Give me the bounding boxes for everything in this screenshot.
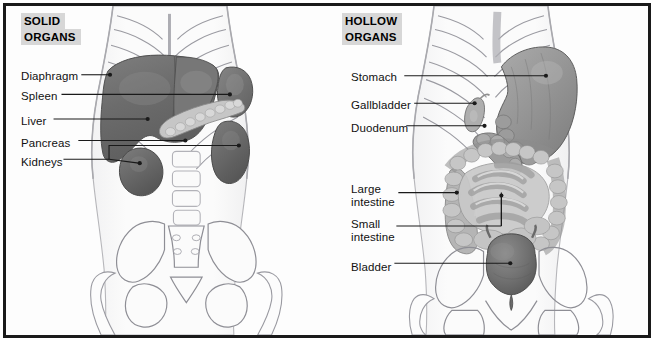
label-liver: Liver: [21, 115, 46, 128]
hollow-organs-leader-lines: [327, 6, 648, 335]
hollow-organs-leader-dots: [455, 74, 548, 266]
label-kidneys: Kidneys: [21, 156, 63, 169]
solid-organs-leader-lines: [6, 6, 327, 335]
label-large-intestine: Large intestine: [351, 183, 395, 209]
label-spleen: Spleen: [21, 90, 57, 103]
label-pancreas: Pancreas: [21, 137, 70, 150]
panel-hollow-organs: HOLLOW ORGANS: [327, 6, 648, 335]
label-small-intestine: Small intestine: [351, 218, 395, 244]
label-duodenum: Duodenum: [351, 122, 408, 135]
figure-frame: SOLID ORGANS: [3, 3, 651, 338]
label-diaphragm: Diaphragm: [21, 70, 78, 83]
label-stomach: Stomach: [351, 71, 397, 84]
panel-solid-organs: SOLID ORGANS: [6, 6, 327, 335]
label-bladder: Bladder: [351, 261, 391, 274]
label-gallbladder: Gallbladder: [351, 99, 411, 112]
